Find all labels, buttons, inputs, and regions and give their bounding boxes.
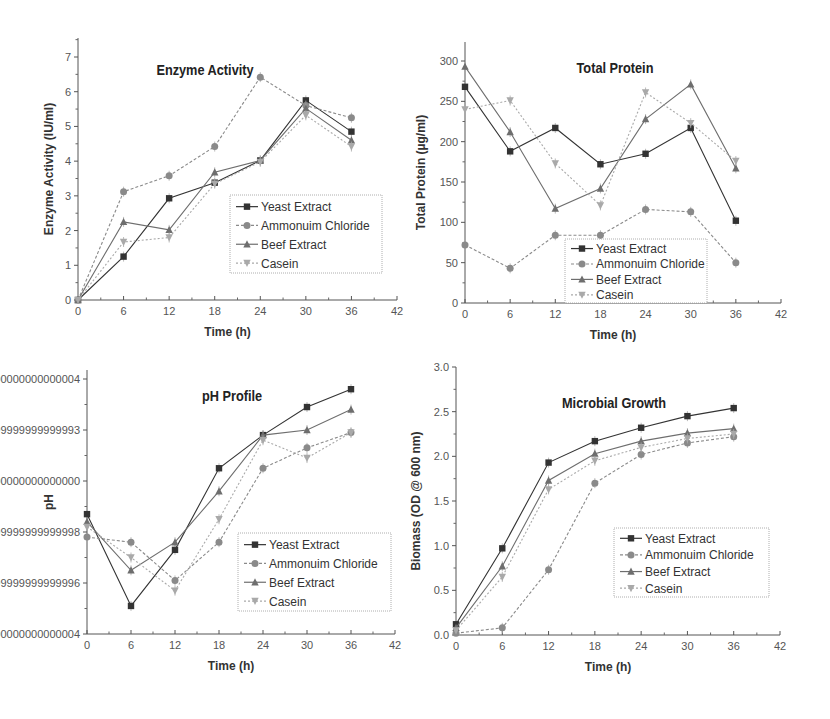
x-tick-label: 0 — [453, 640, 459, 652]
circle-marker-icon — [172, 577, 179, 584]
y-tick-label: 150 — [440, 176, 458, 188]
square-marker-icon — [120, 253, 126, 259]
y-tick-label: 0 — [452, 297, 458, 309]
y-tick-label: 3.0 — [434, 361, 449, 373]
triangle-down-marker-icon — [348, 143, 355, 150]
y-tick-label: 1.5 — [434, 495, 449, 507]
triangle-down-marker-icon — [545, 486, 552, 493]
circle-marker-icon — [597, 232, 604, 239]
legend-label: Beef Extract — [645, 565, 711, 579]
triangle-down-marker-icon — [552, 160, 559, 167]
x-tick-label: 42 — [775, 308, 787, 320]
square-marker-icon — [545, 459, 551, 465]
y-tick-label: 1.0 — [434, 540, 449, 552]
legend-label: Ammonuim Chloride — [261, 219, 370, 233]
y-tick-label: 8.4000000000000004 — [0, 373, 80, 385]
triangle-down-marker-icon — [499, 574, 506, 581]
x-tick-label: 18 — [209, 305, 221, 317]
y-tick-label: 5 — [65, 120, 71, 132]
circle-marker-icon — [462, 241, 469, 248]
circle-marker-icon — [628, 551, 635, 558]
circle-marker-icon — [120, 188, 127, 195]
square-marker-icon — [216, 465, 222, 471]
circle-marker-icon — [552, 232, 559, 239]
triangle-up-marker-icon — [545, 476, 552, 483]
x-tick-label: 18 — [213, 639, 225, 651]
charts-canvas: 0612182430364201234567Time (h)Enzyme Act… — [0, 0, 830, 719]
x-tick-label: 0 — [75, 305, 81, 317]
legend: Yeast ExtractAmmonuim ChlorideBeef Extra… — [238, 533, 391, 611]
legend-label: Yeast Extract — [261, 200, 332, 214]
circle-marker-icon — [260, 465, 267, 472]
triangle-down-marker-icon — [127, 554, 134, 561]
circle-marker-icon — [216, 539, 223, 546]
triangle-up-marker-icon — [347, 406, 354, 413]
square-marker-icon — [348, 386, 354, 392]
x-tick-label: 36 — [730, 308, 742, 320]
triangle-up-marker-icon — [552, 205, 559, 212]
triangle-down-marker-icon — [171, 587, 178, 594]
y-tick-label: 2.5 — [434, 406, 449, 418]
circle-marker-icon — [642, 206, 649, 213]
x-tick-label: 24 — [639, 308, 651, 320]
x-tick-label: 0 — [462, 308, 468, 320]
triangle-up-marker-icon — [499, 562, 506, 569]
x-tick-label: 18 — [589, 640, 601, 652]
figure-panel-grid: 0612182430364201234567Time (h)Enzyme Act… — [0, 0, 830, 719]
square-marker-icon — [733, 218, 739, 224]
circle-marker-icon — [545, 566, 552, 573]
circle-marker-icon — [84, 534, 91, 541]
x-tick-label: 12 — [163, 305, 175, 317]
triangle-down-marker-icon — [591, 458, 598, 465]
legend-label: Beef Extract — [269, 576, 335, 590]
y-tick-label: 4 — [65, 155, 71, 167]
circle-marker-icon — [252, 560, 259, 567]
y-tick-label: 7 — [65, 51, 71, 63]
y-tick-label: 2.0 — [434, 450, 449, 462]
square-marker-icon — [628, 535, 634, 541]
triangle-up-marker-icon — [461, 63, 468, 70]
square-marker-icon — [304, 404, 310, 410]
x-tick-label: 24 — [257, 639, 269, 651]
legend-label: Beef Extract — [596, 273, 662, 287]
chart-enzyme: 0612182430364201234567Time (h)Enzyme Act… — [42, 38, 403, 339]
x-axis-title: Time (h) — [585, 660, 631, 674]
chart-title: Microbial Growth — [562, 394, 666, 411]
legend-label: Yeast Extract — [269, 538, 340, 552]
triangle-up-marker-icon — [303, 426, 310, 433]
x-tick-label: 30 — [681, 640, 693, 652]
triangle-up-marker-icon — [120, 218, 127, 225]
y-tick-label: 300 — [440, 55, 458, 67]
series-beef-extract — [461, 63, 739, 214]
triangle-down-marker-icon — [215, 516, 222, 523]
y-tick-label: 0.0 — [434, 629, 449, 641]
y-axis-title: pH — [42, 494, 56, 510]
legend-label: Ammonuim Chloride — [645, 548, 754, 562]
x-axis-title: Time (h) — [204, 325, 250, 339]
triangle-down-marker-icon — [83, 524, 90, 531]
y-tick-label: 50 — [446, 257, 458, 269]
circle-marker-icon — [348, 114, 355, 121]
y-axis-title: Biomass (OD @ 600 nm) — [409, 431, 423, 570]
y-axis-title: Total Protein (µg/ml) — [414, 115, 428, 230]
circle-marker-icon — [499, 624, 506, 631]
y-tick-label: 8.1999999999999993 — [0, 424, 80, 436]
y-tick-label: 1 — [65, 259, 71, 271]
x-tick-label: 30 — [685, 308, 697, 320]
x-tick-label: 12 — [549, 308, 561, 320]
x-axis-title: Time (h) — [590, 328, 636, 342]
circle-marker-icon — [304, 444, 311, 451]
y-tick-label: 7.5999999999999996 — [0, 577, 80, 589]
x-tick-label: 42 — [774, 640, 786, 652]
y-tick-label: 200 — [440, 136, 458, 148]
y-tick-label: 0.5 — [434, 584, 449, 596]
x-tick-label: 24 — [635, 640, 647, 652]
chart-title: pH Profile — [202, 387, 262, 404]
x-tick-label: 12 — [169, 639, 181, 651]
y-tick-label: 8.0000000000000000 — [0, 475, 80, 487]
y-tick-label: 250 — [440, 95, 458, 107]
square-marker-icon — [348, 128, 354, 134]
x-tick-label: 30 — [300, 305, 312, 317]
square-marker-icon — [128, 603, 134, 609]
x-tick-label: 6 — [128, 639, 134, 651]
